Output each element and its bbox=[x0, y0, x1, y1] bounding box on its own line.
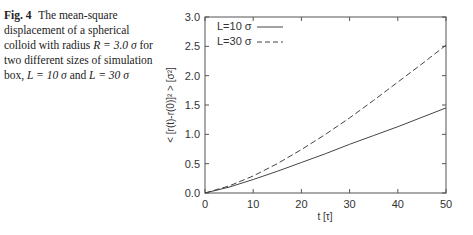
y-tick-label: 3.0 bbox=[185, 11, 200, 23]
y-tick-label: 0.0 bbox=[185, 187, 200, 199]
data-series bbox=[205, 45, 446, 193]
x-tick-label: 20 bbox=[295, 198, 307, 210]
legend-label-l30: L=30 σ bbox=[217, 35, 252, 47]
series-line-dashed bbox=[205, 45, 446, 193]
y-tick-label: 2.0 bbox=[185, 70, 200, 82]
x-tick-label: 50 bbox=[440, 198, 452, 210]
y-tick-label: 0.5 bbox=[185, 158, 200, 170]
series-line-solid bbox=[205, 108, 446, 193]
y-tick-label: 1.0 bbox=[185, 128, 200, 140]
x-tick-label: 10 bbox=[247, 198, 259, 210]
x-axis-label: t [τ] bbox=[317, 211, 332, 222]
x-tick-label: 0 bbox=[202, 198, 208, 210]
x-tick-label: 40 bbox=[392, 198, 404, 210]
y-axis-label: < [r(t)-r(0)]² > [σ²] bbox=[165, 67, 176, 143]
y-tick-label: 2.5 bbox=[185, 40, 200, 52]
x-tick-label: 30 bbox=[343, 198, 355, 210]
legend: L=10 σ L=30 σ bbox=[217, 20, 283, 47]
y-tick-label: 1.5 bbox=[185, 99, 200, 111]
legend-label-l10: L=10 σ bbox=[217, 20, 252, 32]
msd-chart: 010203040500.00.51.01.52.02.53.0 t [τ] <… bbox=[0, 0, 473, 235]
